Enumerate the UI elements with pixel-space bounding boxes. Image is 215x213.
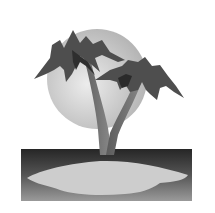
palm-island-graphic [0,0,215,213]
palm-island-illustration [0,0,215,213]
